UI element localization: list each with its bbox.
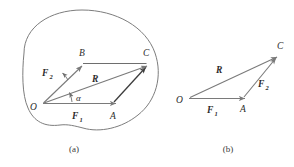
- point-label-c-a: C: [143, 48, 150, 58]
- label-f1-b-subscript: 1: [215, 110, 218, 117]
- point-label-a-a: A: [109, 111, 116, 121]
- point-label-a-b: A: [239, 104, 246, 114]
- vector-r-arrow: [44, 66, 147, 103]
- vector-r-arrow-b: [190, 57, 277, 98]
- label-f1-a-subscript: 1: [80, 116, 83, 123]
- label-f1-a: F 1: [71, 111, 83, 123]
- label-f2-b: F 2: [257, 79, 270, 91]
- point-label-o-a: O: [30, 102, 37, 112]
- angle-arc-f2-r: [63, 73, 69, 80]
- caption-panel-b: (b): [223, 144, 234, 154]
- label-alpha-angle: α: [76, 93, 81, 103]
- label-f2-b-glyph: F: [257, 79, 265, 89]
- label-f2-a: F 2: [41, 68, 54, 80]
- label-f1-a-glyph: F: [71, 111, 79, 121]
- label-r-a: R: [91, 74, 98, 84]
- panel-a: O A B C F 1 F 2 R α (a): [23, 10, 158, 154]
- caption-panel-a: (a): [69, 144, 79, 154]
- label-f2-a-glyph: F: [41, 68, 49, 78]
- vector-f2-arrow-b: [244, 58, 276, 97]
- label-r-b: R: [215, 65, 222, 75]
- label-f2-b-subscript: 2: [265, 84, 270, 91]
- label-f1-b-glyph: F: [206, 105, 214, 115]
- figure-container: O A B C F 1 F 2 R α (a): [0, 0, 294, 167]
- point-label-o-b: O: [176, 95, 183, 105]
- label-f1-b: F 1: [206, 105, 218, 117]
- label-f2-a-subscript: 2: [49, 73, 54, 80]
- vector-addition-figure: O A B C F 1 F 2 R α (a): [0, 0, 294, 167]
- panel-b: O A C F 1 F 2 R (b): [176, 41, 284, 154]
- point-label-c-b: C: [277, 41, 284, 51]
- point-label-b-a: B: [79, 48, 85, 58]
